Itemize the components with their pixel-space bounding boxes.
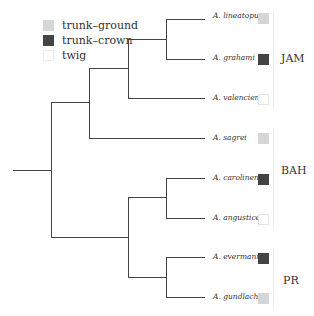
region-label-pr: PR [283, 274, 299, 287]
taxon-label: A. gundlachi [213, 292, 261, 301]
taxon-label: A. sagrei [213, 133, 247, 142]
ecomorph-box [258, 54, 269, 65]
ecomorph-box [258, 214, 269, 225]
region-label-bah: BAH [281, 164, 307, 177]
region-divider [273, 248, 274, 308]
ecomorph-box [258, 174, 269, 185]
ecomorph-box [258, 253, 269, 264]
taxon-label: A. grahami [213, 53, 255, 62]
region-divider [273, 10, 274, 110]
taxon-label: A. lineatopus [213, 11, 263, 20]
ecomorph-box [258, 94, 269, 105]
region-label-jam: JAM [281, 52, 305, 65]
ecomorph-box [258, 293, 269, 304]
taxon-label: A. evermanni [213, 252, 264, 261]
ecomorph-box [258, 13, 269, 24]
region-divider [273, 128, 274, 228]
ecomorph-box [258, 133, 269, 144]
phylogenetic-tree [0, 0, 314, 316]
